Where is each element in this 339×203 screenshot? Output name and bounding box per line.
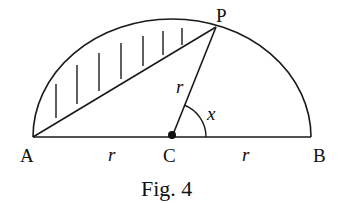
center-point-C bbox=[168, 131, 176, 139]
semicircle-arc bbox=[33, 19, 311, 137]
label-radius-CB: r bbox=[242, 144, 250, 165]
label-point-B: B bbox=[313, 145, 326, 166]
label-radius-CP: r bbox=[176, 76, 184, 97]
label-point-C: C bbox=[163, 145, 176, 166]
shaded-segment-hatching bbox=[56, 28, 182, 118]
label-point-P: P bbox=[216, 5, 227, 26]
label-angle-x: x bbox=[206, 103, 216, 124]
chord-AP bbox=[33, 27, 216, 137]
label-radius-AC: r bbox=[108, 144, 116, 165]
label-point-A: A bbox=[20, 145, 34, 166]
angle-arc-x bbox=[184, 105, 206, 137]
semicircle-diagram: A C B P r r r x Fig. 4 bbox=[0, 0, 339, 203]
figure-caption: Fig. 4 bbox=[141, 176, 192, 201]
